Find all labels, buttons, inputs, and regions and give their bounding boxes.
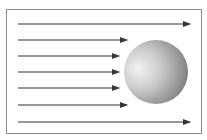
sphere [124, 40, 188, 104]
flow-diagram [0, 0, 207, 140]
